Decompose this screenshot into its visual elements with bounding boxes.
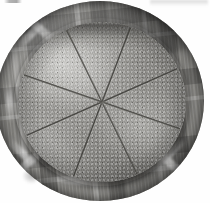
- cut-line: [28, 103, 103, 136]
- cut-line: [103, 103, 138, 175]
- cut-line: [75, 103, 103, 177]
- cut-line: [103, 70, 178, 103]
- cut-line: [103, 29, 131, 103]
- pie-slice-cuts: [18, 22, 186, 182]
- cut-line: [103, 103, 181, 130]
- photograph: [0, 0, 210, 203]
